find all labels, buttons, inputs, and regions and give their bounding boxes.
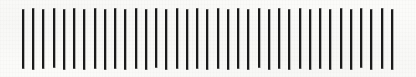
tally-stroke <box>186 9 188 70</box>
tally-stroke <box>114 8 116 69</box>
tally-stroke <box>227 9 229 70</box>
tally-stroke <box>176 8 178 69</box>
tally-stroke <box>104 9 106 70</box>
tally-stroke <box>145 9 147 70</box>
tally-stroke <box>391 9 393 70</box>
tally-stroke <box>319 8 321 69</box>
tally-stroke <box>329 9 331 70</box>
tally-stroke <box>381 8 383 69</box>
tally-strokes-group <box>0 0 416 77</box>
tally-stroke <box>53 8 55 68</box>
figure-canvas <box>0 0 416 77</box>
tally-stroke <box>124 9 126 70</box>
tally-stroke <box>247 9 249 70</box>
tally-stroke <box>258 8 260 68</box>
tally-stroke <box>83 9 85 70</box>
tally-stroke <box>217 8 219 69</box>
tally-stroke <box>360 8 362 68</box>
tally-stroke <box>237 8 239 69</box>
tally-stroke <box>299 8 301 69</box>
tally-stroke <box>155 8 157 68</box>
tally-stroke <box>73 8 75 69</box>
tally-stroke <box>340 8 342 69</box>
tally-stroke <box>206 9 208 70</box>
tally-stroke <box>268 9 270 70</box>
tally-stroke <box>32 8 34 70</box>
tally-stroke <box>165 9 167 70</box>
tally-stroke <box>22 9 24 69</box>
tally-stroke <box>288 9 290 70</box>
tally-stroke <box>350 9 352 70</box>
tally-stroke <box>196 8 198 69</box>
tally-stroke <box>370 9 372 70</box>
tally-stroke <box>42 9 44 69</box>
tally-stroke <box>135 8 137 69</box>
tally-stroke <box>94 8 96 69</box>
tally-stroke <box>278 8 280 69</box>
tally-stroke <box>309 9 311 70</box>
tally-stroke <box>63 9 65 70</box>
